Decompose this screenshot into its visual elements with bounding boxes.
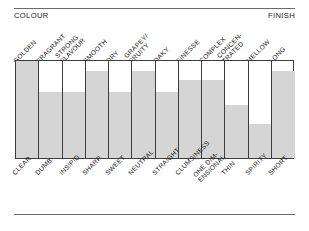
chart-column (109, 61, 132, 158)
chart-bar (249, 124, 271, 158)
chart-column (225, 61, 248, 158)
chart-bar (132, 71, 154, 158)
chart-column (179, 61, 202, 158)
chart-column (249, 61, 272, 158)
chart-column (156, 61, 179, 158)
chart-bar (16, 61, 38, 158)
chart-bar (225, 105, 247, 158)
wine-profile-chart-figure: COLOUR FINISH GOLDENFRAGRANTSTRONGFLAVOU… (0, 0, 309, 231)
header-label-colour: COLOUR (14, 11, 49, 20)
bottom-tick-label: DUMB (34, 157, 54, 177)
chart-column (86, 61, 109, 158)
chart-bar (39, 92, 61, 158)
chart-bar (86, 71, 108, 158)
chart-column (132, 61, 155, 158)
axis-header-row: COLOUR FINISH (14, 11, 295, 23)
chart-column (63, 61, 86, 158)
chart-plot-area (15, 60, 294, 159)
bottom-divider-rule (14, 214, 295, 215)
top-divider-rule (14, 8, 295, 9)
header-label-finish: FINISH (268, 11, 295, 20)
chart-bar (109, 92, 131, 158)
tick-label-line: DUMB (34, 157, 53, 176)
chart-bar (272, 71, 295, 158)
chart-column (16, 61, 39, 158)
chart-column (39, 61, 62, 158)
chart-column (272, 61, 295, 158)
chart-bar (63, 92, 85, 158)
